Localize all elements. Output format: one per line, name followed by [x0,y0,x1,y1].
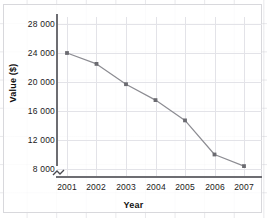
y-axis-line [56,14,58,166]
gridline-x-2007 [244,17,245,177]
gridline-x-2002 [96,17,97,177]
gridline-y-8000 [57,169,262,170]
x-tick-label-2003: 2003 [109,182,143,192]
gridline-x-2001 [67,17,68,177]
chart-figure: 28 000 24 000 20 000 16 000 12 000 8 000… [0,0,267,218]
y-tick-label-12000: 12 000 [0,135,55,145]
gridline-y-28000 [57,24,262,25]
gridline-x-2005 [185,17,186,177]
gridline-x-2003 [126,17,127,177]
gridline-x-2006 [215,17,216,177]
gridline-y-16000 [57,111,262,112]
x-tick-label-2002: 2002 [79,182,113,192]
x-axis-line [56,176,262,178]
y-tick-label-8000: 8 000 [0,164,55,174]
x-tick-label-2005: 2005 [168,182,202,192]
gridline-x-2004 [156,17,157,177]
plot-area [57,17,262,177]
gridline-y-24000 [57,53,262,54]
y-axis-title: Value ($) [8,48,18,118]
gridline-y-20000 [57,82,262,83]
x-axis-title: Year [0,200,267,210]
x-tick-label-2007: 2007 [227,182,261,192]
y-tick-label-28000: 28 000 [0,19,55,29]
gridline-y-12000 [57,140,262,141]
